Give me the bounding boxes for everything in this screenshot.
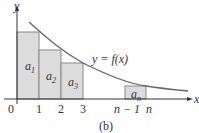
label-a1: a1 (25, 60, 35, 77)
label-a2: a2 (46, 70, 56, 87)
tick-3: 3 (80, 103, 86, 115)
riemann-sum-figure: y x 0 1 2 3 n − 1 n a1 a2 a3 an y = f(x)… (0, 0, 199, 133)
label-an: an (131, 88, 141, 105)
y-axis-label: y (14, 0, 19, 12)
label-a3: a3 (68, 76, 78, 93)
tick-n: n (146, 103, 152, 115)
curve-label: y = f(x) (92, 53, 128, 65)
tick-2: 2 (58, 103, 64, 115)
tick-0: 0 (8, 103, 14, 115)
x-axis-arrow-icon (187, 97, 193, 101)
figure-caption: (b) (99, 120, 113, 132)
tick-1: 1 (36, 103, 42, 115)
x-axis-label: x (194, 93, 199, 105)
